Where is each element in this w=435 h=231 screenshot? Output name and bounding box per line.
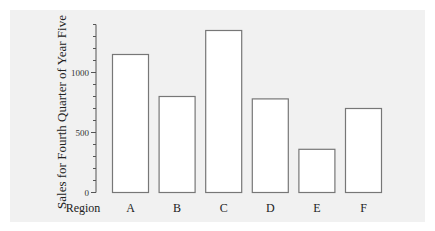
bar-A: [113, 55, 149, 193]
x-axis-labels: ABCDEF: [126, 201, 367, 215]
bar-D: [252, 99, 288, 193]
y-axis-title: Sales for Fourth Quarter of Year Five: [54, 15, 69, 209]
y-tick-label: 500: [76, 128, 90, 138]
bar-chart: 05001000 ABCDEF Sales for Fourth Quarter…: [0, 0, 435, 231]
y-tick-label: 1000: [71, 68, 90, 78]
y-axis: 05001000: [71, 25, 96, 198]
bar-C: [206, 31, 242, 193]
bar-F: [346, 109, 382, 193]
x-tick-label: A: [126, 201, 135, 215]
bar-E: [299, 149, 335, 192]
x-tick-label: E: [313, 201, 320, 215]
bars: [113, 31, 382, 193]
bar-B: [159, 97, 195, 193]
x-tick-label: B: [173, 201, 181, 215]
x-tick-label: C: [220, 201, 228, 215]
x-tick-label: D: [266, 201, 275, 215]
x-axis-title: Region: [66, 201, 101, 215]
x-tick-label: F: [360, 201, 367, 215]
y-tick-label: 0: [85, 188, 90, 198]
